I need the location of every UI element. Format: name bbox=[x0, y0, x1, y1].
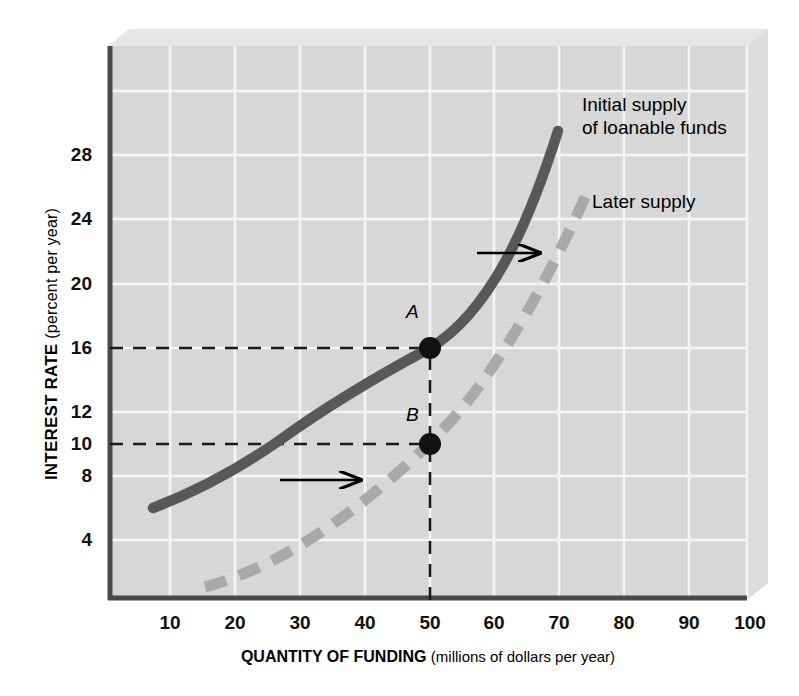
later-supply-label: Later supply bbox=[592, 190, 696, 213]
point-b-marker bbox=[419, 433, 441, 455]
xtick-label-20: 20 bbox=[205, 613, 265, 632]
plot-bevel-right bbox=[747, 29, 768, 600]
y-axis-title: INTEREST RATE (percent per year) bbox=[42, 134, 62, 554]
xtick-label-30: 30 bbox=[270, 613, 330, 632]
xtick-label-70: 70 bbox=[529, 613, 589, 632]
y-axis-title-unit: (percent per year) bbox=[43, 208, 60, 339]
point-a-marker bbox=[419, 337, 441, 359]
initial-supply-label-line1: Initial supply bbox=[582, 93, 727, 116]
xtick-label-10: 10 bbox=[140, 613, 200, 632]
y-axis-title-main: INTEREST RATE bbox=[42, 344, 61, 480]
xtick-label-50: 50 bbox=[400, 613, 460, 632]
x-axis-title: QUANTITY OF FUNDING (millions of dollars… bbox=[108, 648, 748, 666]
xtick-label-80: 80 bbox=[594, 613, 654, 632]
point-b-label: B bbox=[406, 404, 419, 426]
point-a-label: A bbox=[406, 301, 419, 323]
initial-supply-label-line2: of loanable funds bbox=[582, 116, 727, 139]
initial-supply-label: Initial supply of loanable funds bbox=[582, 93, 727, 139]
x-axis-title-unit: (millions of dollars per year) bbox=[431, 648, 615, 665]
plot-bevel-top bbox=[108, 29, 768, 46]
x-axis-title-main: QUANTITY OF FUNDING bbox=[241, 648, 426, 665]
xtick-label-60: 60 bbox=[464, 613, 524, 632]
xtick-label-100: 100 bbox=[720, 613, 780, 632]
xtick-label-90: 90 bbox=[659, 613, 719, 632]
figure-container: 28 24 20 16 12 10 8 4 10 20 30 40 50 60 … bbox=[0, 0, 799, 696]
xtick-label-40: 40 bbox=[335, 613, 395, 632]
